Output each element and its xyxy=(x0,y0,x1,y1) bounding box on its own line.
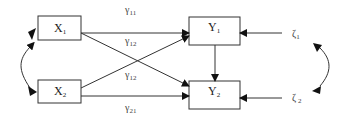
zeta-1-label: ζ1 xyxy=(292,28,300,41)
node-x1: X1 xyxy=(38,16,81,40)
node-y1: Y1 xyxy=(189,17,240,45)
path-diagram: X1 X2 Y1 Y2 γ11 γ12 γ12 γ21 xyxy=(0,0,353,120)
node-x2: X2 xyxy=(38,80,81,103)
zeta-2-label: ζ 2 xyxy=(292,92,302,105)
gamma-11-label: γ11 xyxy=(124,4,137,17)
gamma-21-label: γ21 xyxy=(124,102,137,115)
gamma-12-lower-label: γ12 xyxy=(124,69,137,82)
node-y2: Y2 xyxy=(189,81,240,109)
gamma-12-upper-label: γ12 xyxy=(124,35,137,48)
